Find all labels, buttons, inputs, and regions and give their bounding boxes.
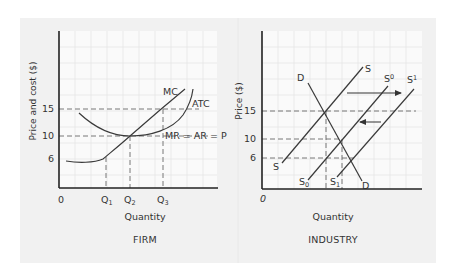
industry-chart: D D S S S0 S1 S0 S1 15 10 6 0 Quantity P… <box>234 31 422 245</box>
figure-svg: MC ATC MR = AR = P 15 10 6 0 Q1 Q2 Q3 Qu… <box>0 0 454 280</box>
firm-tick-10: 10 <box>42 130 54 141</box>
industry-tick-15: 15 <box>244 105 256 116</box>
firm-caption: FIRM <box>133 234 157 245</box>
supply-s-label-bottom: S <box>273 161 279 172</box>
demand-label-top: D <box>297 72 304 83</box>
industry-tick-6: 6 <box>250 152 256 163</box>
industry-tick-10: 10 <box>244 133 256 144</box>
firm-tick-15: 15 <box>42 103 54 114</box>
q2-label: Q2 <box>124 194 136 207</box>
firm-tick-6: 6 <box>48 153 54 164</box>
q3-label: Q3 <box>157 194 169 207</box>
atc-label: ATC <box>192 98 210 109</box>
firm-chart: MC ATC MR = AR = P 15 10 6 0 Q1 Q2 Q3 Qu… <box>28 31 227 245</box>
firm-x-axis-title: Quantity <box>124 211 165 222</box>
industry-x-axis-title: Quantity <box>312 211 353 222</box>
q1-label: Q1 <box>101 194 113 207</box>
industry-caption: INDUSTRY <box>308 234 357 245</box>
mc-label: MC <box>163 86 178 97</box>
firm-origin-label: 0 <box>58 194 64 205</box>
firm-y-axis-title: Price and cost ($) <box>28 62 38 141</box>
mr-ar-p-label: MR = AR = P <box>165 130 227 141</box>
industry-origin-label: 0 <box>260 193 266 204</box>
supply-s-label-top: S <box>365 63 371 74</box>
demand-label-bottom: D <box>362 180 369 191</box>
industry-y-axis-title: Price ($) <box>234 82 244 120</box>
firm-plot-area <box>59 31 217 188</box>
